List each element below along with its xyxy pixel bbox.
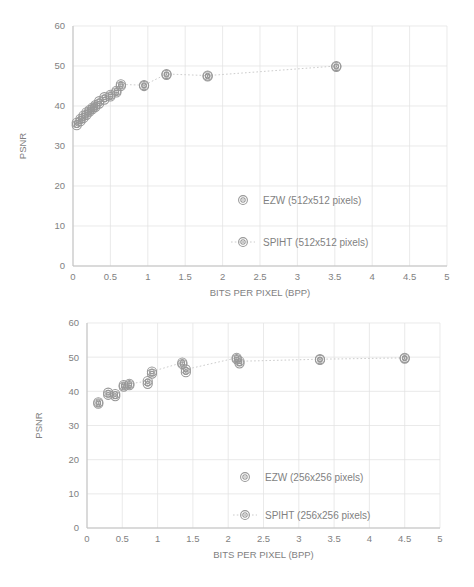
x-tick-label: 2.5	[253, 271, 266, 282]
marker-center-dot	[185, 369, 187, 371]
x-tick-label: 3	[296, 533, 301, 544]
legend-marker-center-dot	[242, 199, 244, 201]
marker-center-dot	[104, 96, 106, 98]
legend-marker-center-dot	[244, 476, 246, 478]
x-tick-label: 3.5	[328, 271, 341, 282]
y-tick-label: 30	[68, 420, 79, 431]
y-tick-label: 10	[54, 220, 65, 231]
marker-center-dot	[98, 100, 100, 102]
legend-marker-center-dot	[242, 241, 244, 243]
legend-label: SPIHT (512x512 pixels)	[263, 237, 368, 248]
marker-center-dot	[120, 84, 122, 86]
y-tick-label: 30	[54, 140, 65, 151]
x-tick-label: 0.5	[104, 271, 117, 282]
y-tick-label: 50	[54, 60, 65, 71]
x-tick-label: 0	[70, 271, 75, 282]
y-tick-label: 20	[68, 454, 79, 465]
y-tick-label: 40	[68, 386, 79, 397]
y-tick-label: 60	[54, 20, 65, 31]
x-tick-label: 4.5	[398, 533, 411, 544]
figure-page: 00.511.522.533.544.550102030405060BITS P…	[0, 0, 474, 587]
marker-center-dot	[207, 75, 209, 77]
x-tick-label: 0	[84, 533, 89, 544]
chart-bottom-256: 00.511.522.533.544.550102030405060BITS P…	[0, 300, 474, 587]
x-tick-label: 1.5	[179, 271, 192, 282]
legend-label: SPIHT (256x256 pixels)	[265, 510, 370, 521]
marker-center-dot	[123, 384, 125, 386]
y-tick-label: 10	[68, 488, 79, 499]
y-tick-label: 0	[60, 260, 65, 271]
marker-center-dot	[319, 358, 321, 360]
y-tick-label: 20	[54, 180, 65, 191]
y-tick-label: 50	[68, 352, 79, 363]
marker-center-dot	[182, 362, 184, 364]
legend-marker-center-dot	[244, 514, 246, 516]
x-tick-label: 1	[155, 533, 160, 544]
x-tick-label: 5	[437, 533, 442, 544]
marker-center-dot	[151, 371, 153, 373]
chart-top-512: 00.511.522.533.544.550102030405060BITS P…	[0, 0, 474, 300]
y-tick-label: 60	[68, 317, 79, 328]
marker-center-dot	[166, 73, 168, 75]
legend-label: EZW (512x512 pixels)	[263, 195, 361, 206]
x-axis-title: BITS PER PIXEL (BPP)	[210, 287, 310, 298]
marker-center-dot	[336, 65, 338, 67]
marker-center-dot	[143, 84, 145, 86]
x-tick-label: 3	[295, 271, 300, 282]
x-tick-label: 0.5	[116, 533, 129, 544]
legend-label: EZW (256x256 pixels)	[265, 472, 363, 483]
marker-center-dot	[114, 393, 116, 395]
x-tick-label: 4.5	[403, 271, 416, 282]
marker-center-dot	[129, 383, 131, 385]
y-axis-title: PSNR	[17, 133, 28, 160]
y-tick-label: 40	[54, 100, 65, 111]
x-tick-label: 4	[370, 271, 375, 282]
x-tick-label: 5	[444, 271, 449, 282]
marker-center-dot	[110, 94, 112, 96]
marker-center-dot	[107, 392, 109, 394]
y-tick-label: 0	[74, 522, 79, 533]
x-axis-title: BITS PER PIXEL (BPP)	[213, 549, 313, 560]
marker-center-dot	[404, 357, 406, 359]
x-tick-label: 2.5	[257, 533, 270, 544]
marker-center-dot	[239, 361, 241, 363]
marker-center-dot	[98, 402, 100, 404]
marker-center-dot	[116, 90, 118, 92]
x-tick-label: 1.5	[186, 533, 199, 544]
y-axis-title: PSNR	[33, 412, 44, 439]
marker-center-dot	[147, 380, 149, 382]
chart-bottom-canvas: 00.511.522.533.544.550102030405060BITS P…	[0, 300, 474, 587]
x-tick-label: 2	[226, 533, 231, 544]
x-tick-label: 1	[145, 271, 150, 282]
x-tick-label: 2	[220, 271, 225, 282]
chart-top-canvas: 00.511.522.533.544.550102030405060BITS P…	[0, 0, 474, 300]
x-tick-label: 3.5	[327, 533, 340, 544]
x-tick-label: 4	[367, 533, 372, 544]
